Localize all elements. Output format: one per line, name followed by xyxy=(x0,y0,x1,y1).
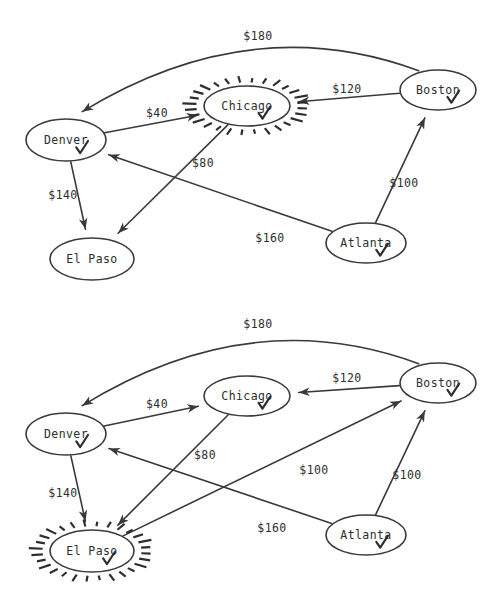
node-label-boston: Boston xyxy=(416,83,460,97)
spark-ray xyxy=(135,564,147,568)
spark-ray xyxy=(289,90,299,93)
node-chicago[interactable]: Chicago xyxy=(182,76,307,135)
spark-ray xyxy=(216,126,221,130)
edge-path xyxy=(299,386,400,393)
edge-denver-elpaso[interactable]: $140 xyxy=(48,162,87,229)
node-label-atlanta: Atlanta xyxy=(340,528,391,542)
spark-ray xyxy=(50,569,58,573)
edge-weight-label: $80 xyxy=(194,448,216,462)
spark-ray xyxy=(193,119,205,123)
edge-weight-label: $160 xyxy=(255,231,284,245)
spark-ray xyxy=(191,114,200,116)
spark-ray xyxy=(275,126,282,131)
edge-path xyxy=(109,448,332,523)
graph-step-2: $180$40$120$80$140$160$100$100DenverChic… xyxy=(26,317,476,582)
edge-weight-label: $40 xyxy=(146,106,168,120)
edge-weight-label: $140 xyxy=(48,486,77,500)
node-denver[interactable]: Denver xyxy=(26,413,106,455)
spark-ray xyxy=(284,122,291,125)
node-label-atlanta: Atlanta xyxy=(340,236,391,250)
spark-ray xyxy=(60,526,65,530)
spark-ray xyxy=(62,572,67,576)
spark-ray xyxy=(141,547,150,548)
spark-ray xyxy=(182,103,196,104)
node-atlanta[interactable]: Atlanta xyxy=(326,223,406,263)
node-label-boston: Boston xyxy=(416,376,460,390)
spark-ray xyxy=(31,554,42,555)
edge-atlanta-boston[interactable]: $100 xyxy=(376,411,425,515)
spark-ray xyxy=(225,79,229,84)
spark-ray xyxy=(214,83,219,87)
spark-ray xyxy=(107,522,111,527)
arrow-head-boston-denver xyxy=(82,396,94,405)
node-elpaso[interactable]: El Paso xyxy=(50,238,134,280)
node-elpaso[interactable]: El Paso xyxy=(29,520,152,582)
spark-ray xyxy=(193,91,203,94)
edge-weight-label: $160 xyxy=(257,521,286,535)
edge-weight-label: $140 xyxy=(48,188,77,202)
node-label-denver: Denver xyxy=(44,133,88,147)
graph-diagram: $180$40$120$80$140$160$100DenverChicagoB… xyxy=(0,0,504,607)
graph-step-1: $180$40$120$80$140$160$100DenverChicagoB… xyxy=(26,29,476,281)
spark-ray xyxy=(128,568,135,571)
spark-ray xyxy=(71,522,75,527)
edge-boston-chicago[interactable]: $120 xyxy=(299,371,400,397)
spark-ray xyxy=(295,95,308,97)
spark-ray xyxy=(204,123,212,127)
spark-ray xyxy=(119,572,125,577)
spark-ray xyxy=(227,128,231,134)
spark-ray xyxy=(252,78,253,82)
node-boston[interactable]: Boston xyxy=(400,363,476,403)
edge-boston-chicago[interactable]: $120 xyxy=(298,82,399,106)
edge-weight-label: $100 xyxy=(299,463,328,477)
spark-ray xyxy=(200,85,210,90)
edge-denver-chicago[interactable]: $40 xyxy=(104,397,198,426)
graph-step-2-edges: $180$40$120$80$140$160$100$100 xyxy=(48,317,424,536)
spark-ray xyxy=(241,130,242,135)
edge-atlanta-denver[interactable]: $160 xyxy=(109,154,332,244)
edge-denver-chicago[interactable]: $40 xyxy=(105,106,198,133)
spark-ray xyxy=(139,559,150,561)
spark-ray xyxy=(238,76,240,83)
spark-ray xyxy=(273,80,280,86)
spark-ray xyxy=(72,575,76,582)
edge-weight-label: $80 xyxy=(192,156,214,170)
edge-path xyxy=(376,411,425,515)
edge-weight-label: $100 xyxy=(392,468,421,482)
node-chicago[interactable]: Chicago xyxy=(204,376,290,416)
node-label-chicago: Chicago xyxy=(221,99,272,113)
edge-weight-label: $180 xyxy=(243,317,272,331)
node-label-denver: Denver xyxy=(44,427,88,441)
edge-weight-label: $180 xyxy=(243,29,272,43)
edge-weight-label: $40 xyxy=(146,397,168,411)
spark-ray xyxy=(36,542,45,543)
node-label-chicago: Chicago xyxy=(221,389,272,403)
arrow-head-boston-denver xyxy=(82,102,94,111)
node-atlanta[interactable]: Atlanta xyxy=(326,515,406,555)
node-label-elpaso: El Paso xyxy=(66,252,117,266)
edge-path xyxy=(376,118,425,223)
spark-ray xyxy=(87,576,88,582)
spark-ray xyxy=(282,86,289,89)
spark-ray xyxy=(96,522,97,527)
edge-path xyxy=(109,155,332,232)
spark-ray xyxy=(133,534,143,537)
node-boston[interactable]: Boston xyxy=(400,70,476,110)
edge-atlanta-denver[interactable]: $160 xyxy=(109,448,332,535)
spark-ray xyxy=(190,97,199,98)
spark-ray xyxy=(46,529,56,534)
spark-ray xyxy=(291,118,303,121)
spark-ray xyxy=(40,535,50,538)
node-denver[interactable]: Denver xyxy=(26,119,106,161)
edge-denver-elpaso[interactable]: $140 xyxy=(48,456,87,521)
spark-ray xyxy=(265,128,270,134)
edge-atlanta-boston[interactable]: $100 xyxy=(376,118,425,223)
edge-chicago-elpaso[interactable]: $80 xyxy=(118,125,228,233)
spark-ray xyxy=(39,565,51,569)
spark-ray xyxy=(138,540,151,542)
edge-weight-label: $120 xyxy=(332,371,361,385)
spark-ray xyxy=(263,78,267,83)
edge-weight-label: $120 xyxy=(332,82,361,96)
edge-weight-label: $100 xyxy=(389,176,418,190)
spark-ray xyxy=(37,560,46,562)
